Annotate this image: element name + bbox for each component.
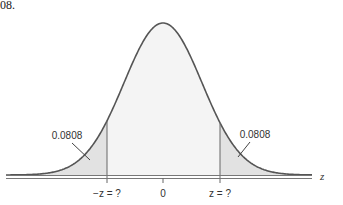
tick-label-pos-z: z = ? <box>209 188 231 199</box>
tick-label-neg-z: −z = ? <box>93 188 121 199</box>
right-tail-label: 0.0808 <box>240 129 271 140</box>
tick-label-zero: 0 <box>160 188 166 199</box>
normal-curve-diagram: 08. z −z = ? 0 z = ? 0.0808 0.0808 <box>0 0 343 205</box>
center-area <box>107 23 220 175</box>
axis-label-z: z <box>319 170 325 182</box>
left-tail-area <box>6 121 107 175</box>
right-tail-pointer <box>238 142 250 157</box>
caption-fragment: 08. <box>0 0 15 12</box>
left-tail-label: 0.0808 <box>52 130 83 141</box>
